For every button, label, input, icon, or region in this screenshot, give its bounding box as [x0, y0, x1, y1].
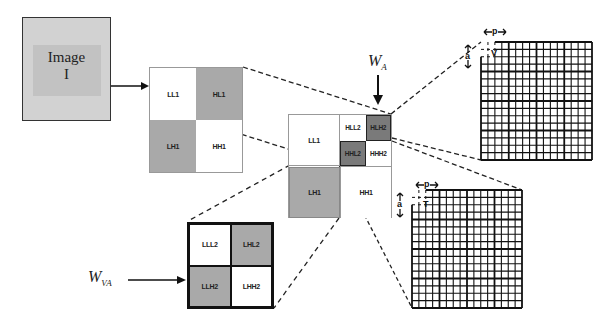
bottom-grid-width-label: p — [424, 179, 430, 189]
subband-ll1: LL1 — [289, 115, 340, 166]
bottom-grid-height-label: a — [397, 199, 402, 209]
wa-label: WA — [368, 52, 387, 72]
subband-hll2: HLL2 — [340, 115, 366, 141]
subband-llh2: LLH2 — [189, 266, 231, 308]
subband-lh1: LH1 — [150, 120, 196, 172]
lh1-subdivision: LLL2 LHL2 LLH2 LHH2 — [187, 222, 274, 309]
top-grid — [481, 42, 592, 160]
level2-decomposition: LL1 HLL2 HLH2 HHL2 HHH2 LH1 HH1 — [288, 114, 392, 218]
subband-lhh2: LHH2 — [231, 266, 273, 308]
input-image-box: Image I — [22, 17, 111, 121]
top-grid-block-label: V — [491, 48, 497, 58]
subband-hh1: HH1 — [196, 120, 242, 172]
subband-hlh2: HLH2 — [366, 115, 392, 141]
subband-lhl2: LHL2 — [231, 224, 273, 266]
bottom-grid-block-label: T — [423, 199, 429, 209]
level1-decomposition: LL1 HL1 LH1 HH1 — [149, 67, 243, 173]
subband-lh1: LH1 — [289, 167, 340, 218]
image-symbol: I — [23, 66, 110, 83]
hl1-subdivision: HLL2 HLH2 HHL2 HHH2 — [340, 115, 391, 167]
wa-subscript: A — [381, 62, 387, 72]
wva-subscript: VA — [101, 278, 111, 288]
wva-main: W — [88, 268, 101, 285]
subband-hl1: HL1 — [196, 68, 242, 120]
subband-ll1: LL1 — [150, 68, 196, 120]
top-grid-width-label: p — [492, 26, 498, 36]
top-grid-height-label: a — [465, 51, 470, 61]
image-title: Image — [23, 49, 110, 66]
subband-lll2: LLL2 — [189, 224, 231, 266]
subband-hh1: HH1 — [340, 167, 391, 218]
image-label: Image I — [23, 49, 110, 83]
subband-hhh2: HHH2 — [366, 141, 392, 167]
wva-label: WVA — [88, 268, 112, 288]
subband-hhl2: HHL2 — [340, 141, 366, 167]
wa-main: W — [368, 52, 381, 69]
